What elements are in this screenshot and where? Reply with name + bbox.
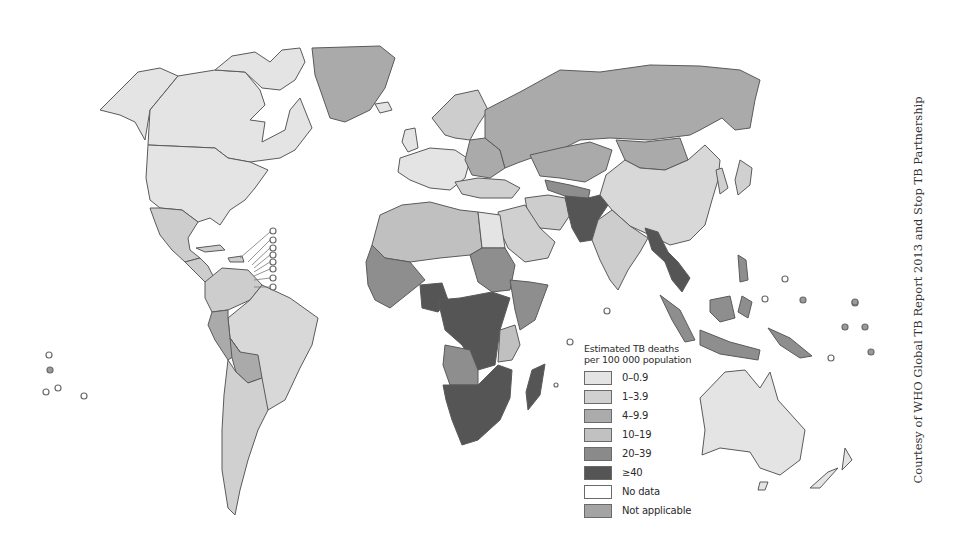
region-scandinavia xyxy=(432,90,488,140)
map-legend: Estimated TB deaths per 100 000 populati… xyxy=(584,343,744,520)
legend-swatch-5 xyxy=(584,466,612,480)
region-sudan xyxy=(470,248,515,292)
region-madagascar xyxy=(526,364,545,410)
legend-title-line2: per 100 000 population xyxy=(584,354,744,365)
legend-swatch-0 xyxy=(584,371,612,385)
legend-item-7: Not applicable xyxy=(584,501,744,520)
legend-label-6: No data xyxy=(622,486,660,497)
legend-label-2: 4–9.9 xyxy=(622,410,648,421)
region-korea-japan xyxy=(716,160,752,195)
legend-item-3: 10–19 xyxy=(584,425,744,444)
legend-item-1: 1–3.9 xyxy=(584,387,744,406)
legend-swatch-3 xyxy=(584,428,612,442)
region-north-africa xyxy=(372,202,482,262)
legend-swatch-2 xyxy=(584,409,612,423)
legend-label-5: ≥40 xyxy=(622,467,643,478)
legend-label-0: 0–0.9 xyxy=(622,372,648,383)
legend-title: Estimated TB deaths per 100 000 populati… xyxy=(584,343,744,365)
legend-swatch-7 xyxy=(584,504,612,518)
legend-swatch-6 xyxy=(584,485,612,499)
image-credit: Courtesy of WHO Global TB Report 2013 an… xyxy=(911,96,925,483)
legend-swatch-1 xyxy=(584,390,612,404)
legend-swatch-4 xyxy=(584,447,612,461)
region-iceland xyxy=(375,102,392,113)
world-map xyxy=(0,0,890,560)
region-new-zealand xyxy=(810,448,852,488)
region-east-africa xyxy=(498,325,520,362)
legend-item-2: 4–9.9 xyxy=(584,406,744,425)
legend-label-3: 10–19 xyxy=(622,429,651,440)
region-tasmania xyxy=(758,482,768,490)
region-balkans-turkey xyxy=(455,178,520,198)
region-argentina-chile xyxy=(222,360,268,515)
legend-label-4: 20–39 xyxy=(622,448,651,459)
legend-item-6: No data xyxy=(584,482,744,501)
region-papua-new-guinea xyxy=(768,328,812,358)
region-caribbean xyxy=(196,245,244,262)
region-philippines xyxy=(738,255,748,282)
legend-item-5: ≥40 xyxy=(584,463,744,482)
legend-item-0: 0–0.9 xyxy=(584,368,744,387)
legend-item-4: 20–39 xyxy=(584,444,744,463)
legend-label-1: 1–3.9 xyxy=(622,391,648,402)
region-uk xyxy=(402,128,418,152)
region-horn-of-africa xyxy=(510,280,548,330)
legend-title-line1: Estimated TB deaths xyxy=(584,343,744,354)
legend-label-7: Not applicable xyxy=(622,505,691,516)
